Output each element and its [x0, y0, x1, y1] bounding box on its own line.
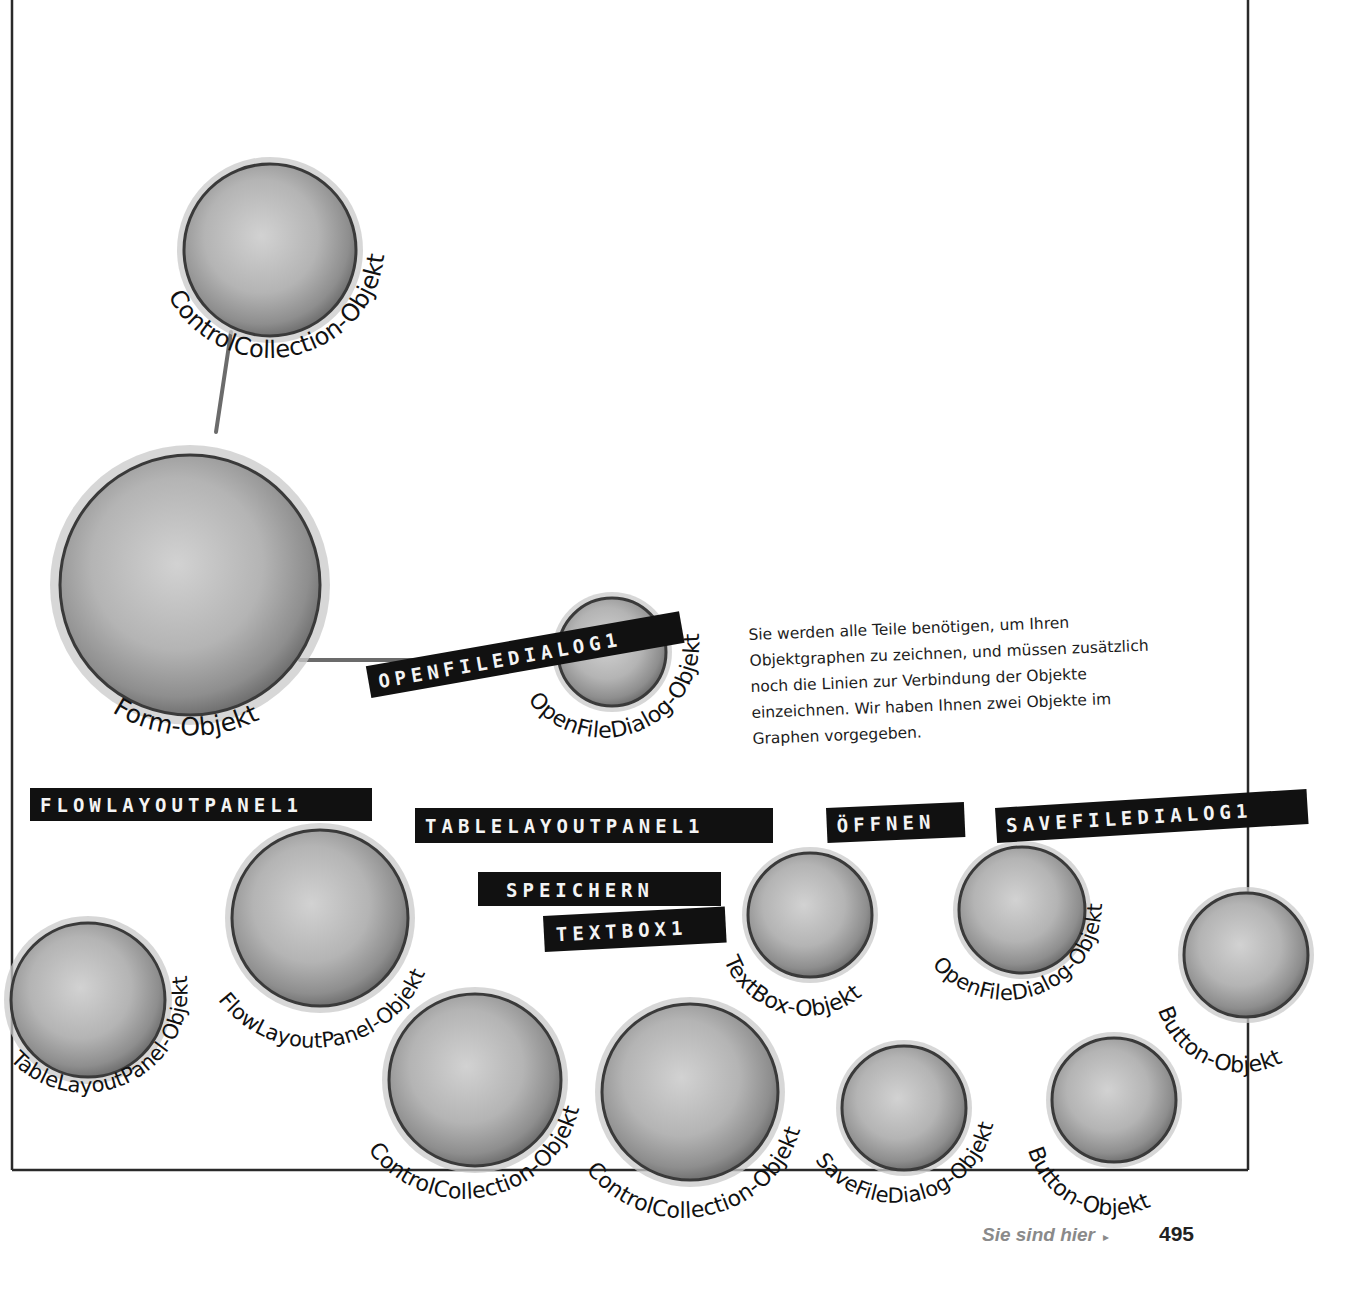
page-number: 495: [1159, 1222, 1194, 1246]
arrow-right-icon: ▸: [1103, 1230, 1109, 1244]
you-are-here-label: Sie sind hier: [982, 1224, 1095, 1246]
object-ball-flowlayoutpanel: [225, 823, 415, 1013]
tag-speichern[interactable]: SPEICHERN: [478, 872, 721, 906]
object-ball-button-right: [1178, 887, 1314, 1023]
instruction-note: Sie werden alle Teile benötigen, um Ihre…: [748, 606, 1173, 752]
tag-savefiledialog1[interactable]: SAVEFILEDIALOG1: [995, 789, 1309, 843]
object-ball-savefiledialog: [836, 1040, 972, 1176]
object-ball-controlcollection-2: [595, 997, 785, 1187]
tag-tablelayoutpanel1[interactable]: TABLELAYOUTPANEL1: [415, 808, 773, 843]
tag-textbox1[interactable]: TEXTBOX1: [543, 906, 727, 951]
svg-text:SPEICHERN: SPEICHERN: [506, 879, 654, 901]
svg-text:FLOWLAYOUTPANEL1: FLOWLAYOUTPANEL1: [40, 794, 303, 816]
tag-oeffnen[interactable]: ÖFFNEN: [826, 802, 965, 843]
tag-flowlayoutpanel1[interactable]: FLOWLAYOUTPANEL1: [30, 788, 372, 821]
object-ball-textbox: [742, 847, 878, 983]
svg-text:TABLELAYOUTPANEL1: TABLELAYOUTPANEL1: [425, 815, 704, 837]
svg-text:ÖFFNEN: ÖFFNEN: [836, 809, 936, 836]
page-footer: Sie sind hier ▸ 495: [982, 1222, 1194, 1246]
object-ball-button-lower: [1046, 1032, 1182, 1168]
object-ball-form: [50, 445, 330, 725]
